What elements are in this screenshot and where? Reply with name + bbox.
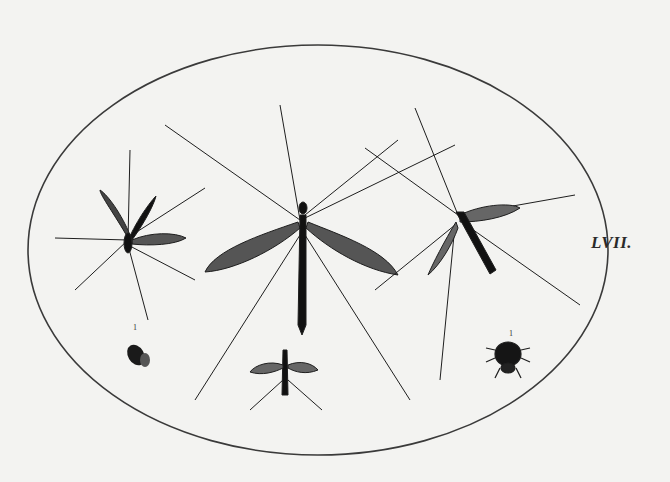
svg-text:1: 1 [509, 329, 513, 338]
insect-illustration: 1 1 [0, 0, 670, 482]
oval-frame [28, 45, 608, 455]
plate-number: LVII. [591, 233, 632, 253]
svg-text:1: 1 [133, 323, 137, 332]
spider-mite: 1 [486, 329, 530, 378]
gnat-bottom [250, 350, 322, 410]
crane-fly-center [165, 105, 455, 400]
crane-fly-right [365, 108, 580, 380]
engraving-plate: 1 1 LVII. [0, 0, 670, 482]
small-fly: 1 [124, 323, 150, 369]
crane-fly-left [55, 150, 205, 320]
